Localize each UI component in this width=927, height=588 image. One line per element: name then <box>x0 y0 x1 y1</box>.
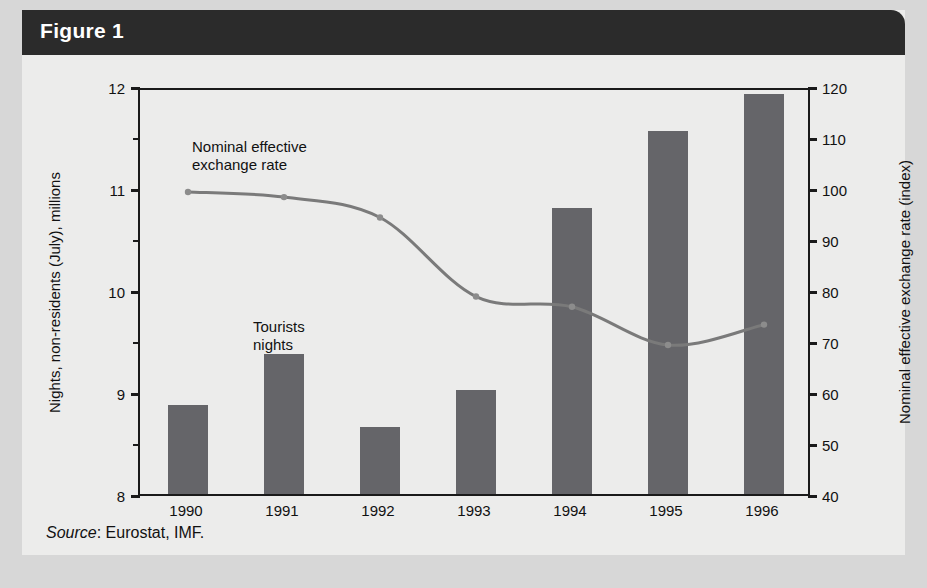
y-left-minor-tick-11.5 <box>133 138 140 140</box>
x-axis-label-1994: 1994 <box>553 502 586 519</box>
x-axis-label-1991: 1991 <box>265 502 298 519</box>
y-right-tick-60 <box>808 393 817 396</box>
x-axis-label-1990: 1990 <box>169 502 202 519</box>
y-right-label-80: 80 <box>822 284 839 301</box>
y-right-label-70: 70 <box>822 335 839 352</box>
line-marker-1996 <box>761 321 767 327</box>
y-left-minor-tick-9.5 <box>133 342 140 344</box>
line-marker-1992 <box>377 214 383 220</box>
y-axis-left-title-wrap: Nights, non-residents (July), millions <box>30 88 54 496</box>
figure-title: Figure 1 <box>40 19 124 43</box>
y-right-tick-90 <box>808 240 817 243</box>
x-axis-label-1993: 1993 <box>457 502 490 519</box>
annotation-exchange-rate-line1: Nominal effective <box>192 138 307 156</box>
annotation-tourists-nights-line2: nights <box>253 336 305 354</box>
y-axis-right-title: Nominal effective exchange rate (index) <box>896 142 915 442</box>
y-right-tick-80 <box>808 291 817 294</box>
y-right-tick-50 <box>808 444 817 447</box>
y-right-tick-120 <box>808 87 817 90</box>
figure-title-bar: Figure 1 <box>22 10 905 55</box>
y-right-label-50: 50 <box>822 437 839 454</box>
y-axis-right-title-wrap: Nominal effective exchange rate (index) <box>862 88 908 496</box>
annotation-exchange-rate: Nominal effective exchange rate <box>192 138 307 173</box>
y-left-label-9: 9 <box>117 386 125 403</box>
source-label: Source <box>46 524 97 541</box>
line-marker-1993 <box>473 293 479 299</box>
y-axis-left-title: Nights, non-residents (July), millions <box>46 172 63 413</box>
source-value: : Eurostat, IMF. <box>97 524 205 541</box>
line-marker-1991 <box>281 194 287 200</box>
annotation-tourists-nights: Tourists nights <box>253 318 305 353</box>
x-axis-label-1996: 1996 <box>745 502 778 519</box>
x-axis-label-1995: 1995 <box>649 502 682 519</box>
y-right-label-120: 120 <box>822 80 847 97</box>
figure-page: Figure 1 Nights, non-residents (July), m… <box>0 0 927 588</box>
line-marker-1990 <box>185 189 191 195</box>
y-left-tick-10 <box>131 291 140 294</box>
y-right-label-110: 110 <box>822 131 846 148</box>
y-right-label-100: 100 <box>822 182 847 199</box>
y-right-tick-70 <box>808 342 817 345</box>
y-left-tick-8 <box>131 495 140 498</box>
line-marker-1995 <box>665 342 671 348</box>
y-left-minor-tick-10.5 <box>133 240 140 242</box>
line-marker-1994 <box>569 304 575 310</box>
y-left-label-10: 10 <box>108 284 125 301</box>
y-right-label-40: 40 <box>822 488 839 505</box>
y-right-tick-40 <box>808 495 817 498</box>
annotation-tourists-nights-line1: Tourists <box>253 318 305 336</box>
y-right-label-90: 90 <box>822 233 839 250</box>
y-right-tick-100 <box>808 189 817 192</box>
x-axis-label-1992: 1992 <box>361 502 394 519</box>
y-right-tick-110 <box>808 138 817 141</box>
y-left-minor-tick-8.5 <box>133 444 140 446</box>
y-left-tick-9 <box>131 393 140 396</box>
y-left-tick-11 <box>131 189 140 192</box>
y-left-label-12: 12 <box>108 80 125 97</box>
source-note: Source: Eurostat, IMF. <box>46 524 204 542</box>
y-left-tick-12 <box>131 87 140 90</box>
y-left-label-11: 11 <box>109 182 125 199</box>
y-right-label-60: 60 <box>822 386 839 403</box>
y-left-label-8: 8 <box>117 488 125 505</box>
annotation-exchange-rate-line2: exchange rate <box>192 156 307 174</box>
